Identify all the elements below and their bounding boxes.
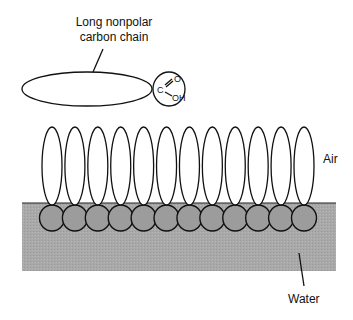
hydroxyl-symbol: OH: [172, 93, 186, 103]
monolayer-molecule: [269, 127, 294, 231]
oxygen-symbol: O: [174, 74, 181, 84]
polar-head-circle: [108, 205, 133, 231]
monolayer-molecule: [292, 127, 317, 231]
polar-head-circle: [62, 205, 87, 231]
monolayer-molecule: [154, 127, 179, 231]
air-label: Air: [323, 152, 338, 166]
nonpolar-tail-ellipse: [65, 127, 85, 205]
nonpolar-tail-ellipse: [42, 127, 62, 205]
polar-head-circle: [269, 205, 294, 231]
chain-leader-line: [93, 49, 103, 72]
monolayer-molecule: [108, 127, 133, 231]
nonpolar-tail-ellipse: [179, 127, 199, 205]
polar-head-circle: [40, 205, 65, 231]
monolayer-molecule: [246, 127, 271, 231]
polar-head-circle: [223, 205, 248, 231]
single-bond-line: [165, 92, 172, 96]
polar-head-circle: [177, 205, 202, 231]
monolayer-molecule: [131, 127, 156, 231]
nonpolar-tail-ellipse: [248, 127, 268, 205]
nonpolar-tail-ellipse: [271, 127, 291, 205]
monolayer: [40, 127, 317, 231]
polar-head-circle: [131, 205, 156, 231]
nonpolar-tail-ellipse: [111, 127, 131, 205]
polar-head-circle: [246, 205, 271, 231]
water-label: Water: [288, 292, 320, 306]
nonpolar-tail-ellipse: [294, 127, 314, 205]
polar-head-circle: [154, 205, 179, 231]
monolayer-molecule: [62, 127, 87, 231]
monolayer-diagram: Long nonpolar carbon chain C O OH Air Wa…: [0, 0, 353, 320]
nonpolar-tail-ellipse: [202, 127, 222, 205]
polar-head-circle: [292, 205, 317, 231]
carbon-chain-ellipse: [22, 72, 152, 106]
polar-head-circle: [85, 205, 110, 231]
nonpolar-tail-ellipse: [88, 127, 108, 205]
chain-label-line1: Long nonpolar: [76, 15, 153, 29]
polar-head-circle: [200, 205, 225, 231]
nonpolar-tail-ellipse: [134, 127, 154, 205]
carbon-symbol: C: [157, 85, 164, 95]
monolayer-molecule: [85, 127, 110, 231]
monolayer-molecule: [223, 127, 248, 231]
monolayer-molecule: [200, 127, 225, 231]
nonpolar-tail-ellipse: [225, 127, 245, 205]
chain-label-line2: carbon chain: [80, 30, 149, 44]
monolayer-molecule: [40, 127, 65, 231]
nonpolar-tail-ellipse: [157, 127, 177, 205]
monolayer-molecule: [177, 127, 202, 231]
